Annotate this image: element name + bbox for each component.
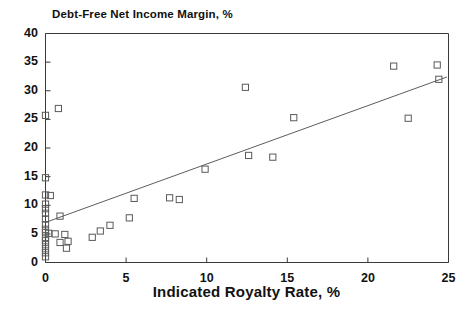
y-tick-label: 5 [4, 226, 38, 240]
data-point [291, 115, 297, 121]
x-axis-title: Indicated Royalty Rate, % [45, 283, 448, 300]
y-tick-label: 15 [4, 169, 38, 183]
y-tick-label: 35 [4, 54, 38, 68]
data-point [126, 215, 132, 221]
axis-frame [46, 34, 449, 263]
data-point [202, 166, 208, 172]
scatter-chart: Debt-Free Net Income Margin, % 051015202… [0, 0, 468, 310]
y-tick-label: 10 [4, 197, 38, 211]
data-point [242, 84, 248, 90]
data-point [63, 245, 69, 251]
data-point [270, 154, 276, 160]
data-point [167, 195, 173, 201]
y-tick-label: 25 [4, 111, 38, 125]
data-point [434, 62, 440, 68]
y-tick-label: 0 [4, 255, 38, 269]
y-tick-label: 20 [4, 140, 38, 154]
data-point [65, 238, 71, 244]
y-tick-label: 40 [4, 26, 38, 40]
data-points [42, 62, 442, 260]
data-point [176, 196, 182, 202]
tick-marks [46, 34, 449, 263]
y-tick-label: 30 [4, 83, 38, 97]
data-point [131, 195, 137, 201]
plot-canvas [0, 0, 468, 310]
data-point [391, 63, 397, 69]
data-point [97, 228, 103, 234]
data-point [405, 115, 411, 121]
data-point [62, 231, 68, 237]
data-point [107, 222, 113, 228]
data-point [246, 152, 252, 158]
data-point [52, 231, 58, 237]
trend-line [46, 77, 447, 222]
data-point [89, 234, 95, 240]
data-point [57, 239, 63, 245]
data-point [55, 105, 61, 111]
